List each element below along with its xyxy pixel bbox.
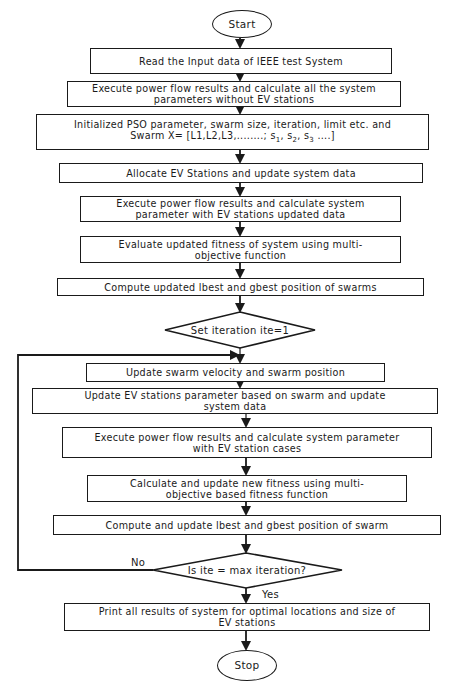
read-input-label: Read the Input data of IEEE test System xyxy=(139,56,343,67)
new-fitness-line2: objective based fitness function xyxy=(166,489,329,500)
compute-best-label: Compute updated lbest and gbest position… xyxy=(104,282,376,293)
base-power-flow-box: Execute power flow results and calculate… xyxy=(67,81,401,107)
base-power-flow-line1: Execute power flow results and calculate… xyxy=(92,83,376,94)
ev-power-flow-box: Execute power flow results and calculate… xyxy=(80,196,401,222)
allocate-ev-box: Allocate EV Stations and update system d… xyxy=(59,163,423,183)
update-ev-params-line1: Update EV stations parameter based on sw… xyxy=(84,390,385,401)
update-ev-params-line2: system data xyxy=(204,401,267,412)
print-results-line1: Print all results of system for optimal … xyxy=(99,606,396,617)
ev-power-flow-line2: parameter with EV stations updated data xyxy=(135,209,345,220)
start-label: Start xyxy=(228,19,255,30)
stop-terminator: Stop xyxy=(217,650,277,681)
loop-power-flow-line2: with EV station cases xyxy=(193,443,302,454)
max-iteration-label: Is ite = max iteration? xyxy=(176,560,318,580)
init-pso-box: Initialized PSO parameter, swarm size, i… xyxy=(36,114,429,150)
evaluate-fitness-box: Evaluate updated fitness of system using… xyxy=(80,236,401,263)
ev-power-flow-line1: Execute power flow results and calculate… xyxy=(116,198,364,209)
yes-edge-label: Yes xyxy=(262,589,279,600)
init-pso-line2: Swarm X= [L1,L2,L3,........; s1, s2, s3 … xyxy=(130,130,335,146)
start-terminator: Start xyxy=(212,10,272,38)
init-pso-line1: Initialized PSO parameter, swarm size, i… xyxy=(74,119,391,130)
update-velocity-box: Update swarm velocity and swarm position xyxy=(86,363,385,382)
update-best-box: Compute and update lbest and gbest posit… xyxy=(53,515,441,535)
flowchart: Start Read the Input data of IEEE test S… xyxy=(0,0,452,696)
no-edge-label: No xyxy=(131,557,145,568)
new-fitness-box: Calculate and update new fitness using m… xyxy=(87,475,407,502)
update-velocity-label: Update swarm velocity and swarm position xyxy=(126,367,345,378)
allocate-ev-label: Allocate EV Stations and update system d… xyxy=(126,168,356,179)
stop-label: Stop xyxy=(234,660,259,671)
update-ev-params-box: Update EV stations parameter based on sw… xyxy=(32,388,438,414)
compute-best-box: Compute updated lbest and gbest position… xyxy=(57,278,424,296)
loop-power-flow-box: Execute power flow results and calculate… xyxy=(62,427,432,458)
base-power-flow-line2: parameters without EV stations xyxy=(154,94,315,105)
print-results-line2: EV stations xyxy=(219,617,276,628)
new-fitness-line1: Calculate and update new fitness using m… xyxy=(130,478,364,489)
update-best-label: Compute and update lbest and gbest posit… xyxy=(106,520,389,531)
loop-power-flow-line1: Execute power flow results and calculate… xyxy=(94,432,399,443)
evaluate-fitness-line1: Evaluate updated fitness of system using… xyxy=(119,239,363,250)
print-results-box: Print all results of system for optimal … xyxy=(64,603,430,631)
set-iteration-label: Set iteration ite=1 xyxy=(180,320,300,340)
read-input-box: Read the Input data of IEEE test System xyxy=(90,48,392,74)
evaluate-fitness-line2: objective function xyxy=(195,250,286,261)
